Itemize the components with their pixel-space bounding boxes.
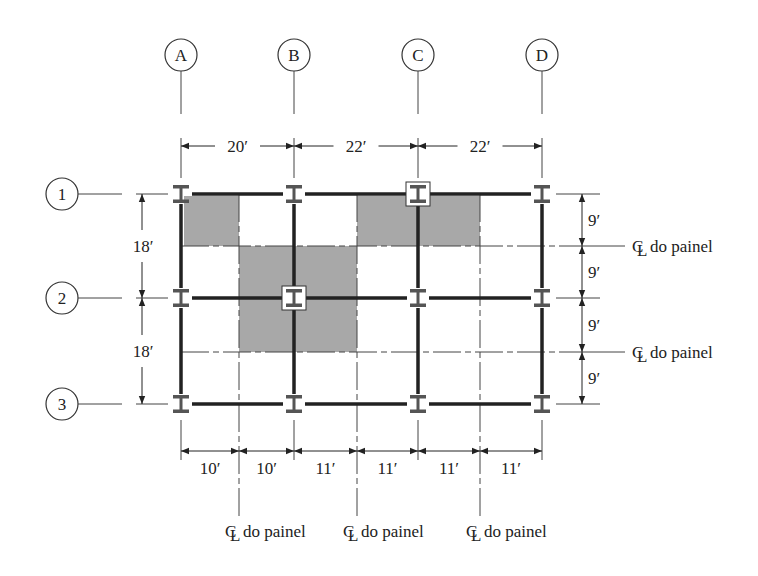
column-icon-C1 bbox=[406, 182, 430, 206]
centerline-symbol-icon: L bbox=[230, 526, 240, 545]
column-icon-B3 bbox=[286, 395, 302, 413]
column-icon-B1 bbox=[286, 185, 302, 203]
column-icon-C2 bbox=[410, 289, 426, 307]
dimension-label: 22′ bbox=[470, 137, 491, 156]
centerline-symbol-icon: L bbox=[471, 526, 481, 545]
dimension-label: 11′ bbox=[439, 459, 459, 478]
centerline-label: CLdo painel bbox=[632, 343, 713, 366]
dimension-label: 10′ bbox=[200, 459, 221, 478]
tributary-area-beam-a1 bbox=[184, 196, 239, 246]
dimension-label: 9′ bbox=[588, 263, 600, 282]
centerline-symbol-icon: L bbox=[637, 347, 647, 366]
centerline-label: CLdo painel bbox=[343, 522, 424, 545]
tributary-shaded-areas bbox=[184, 196, 480, 352]
column-icon-A3 bbox=[173, 395, 189, 413]
floor-plan-diagram: ABCD123 20′22′22′10′10′11′11′11′11′18′18… bbox=[0, 0, 758, 576]
dimension-label: 20′ bbox=[227, 137, 248, 156]
dimension-label: 22′ bbox=[346, 137, 367, 156]
column-icon-D1 bbox=[534, 185, 550, 203]
centerline-label: CLdo painel bbox=[466, 522, 547, 545]
centerline-text: do painel bbox=[484, 522, 547, 541]
grid-label-C: C bbox=[412, 46, 423, 65]
centerline-symbol-icon: L bbox=[637, 241, 647, 260]
column-icon-A2 bbox=[173, 289, 189, 307]
grid-label-A: A bbox=[175, 46, 188, 65]
column-icon-B2 bbox=[282, 286, 306, 310]
column-icon-D2 bbox=[534, 289, 550, 307]
column-icon-C3 bbox=[410, 395, 426, 413]
grid-label-3: 3 bbox=[58, 395, 67, 414]
dimension-label: 10′ bbox=[256, 459, 277, 478]
dimension-label: 11′ bbox=[501, 459, 521, 478]
centerline-label: CLdo painel bbox=[225, 522, 306, 545]
dimension-label: 9′ bbox=[588, 316, 600, 335]
centerline-text: do painel bbox=[243, 522, 306, 541]
dimension-label: 18′ bbox=[133, 342, 154, 361]
centerline-label: CLdo painel bbox=[632, 237, 713, 260]
centerline-text: do painel bbox=[650, 237, 713, 256]
centerline-symbol-icon: L bbox=[348, 526, 358, 545]
grid-label-2: 2 bbox=[58, 289, 67, 308]
column-icon-D3 bbox=[534, 395, 550, 413]
grid-label-B: B bbox=[288, 46, 299, 65]
grid-label-1: 1 bbox=[58, 185, 67, 204]
dimension-label: 9′ bbox=[588, 369, 600, 388]
dimension-label: 18′ bbox=[133, 237, 154, 256]
dimension-label: 9′ bbox=[588, 211, 600, 230]
centerline-text: do painel bbox=[361, 522, 424, 541]
dimension-lines: 20′22′22′10′10′11′11′11′11′18′18′9′9′9′9… bbox=[133, 137, 601, 478]
dimension-label: 11′ bbox=[377, 459, 397, 478]
centerline-text: do painel bbox=[650, 343, 713, 362]
dimension-label: 11′ bbox=[315, 459, 335, 478]
grid-label-D: D bbox=[536, 46, 548, 65]
column-icon-A1 bbox=[173, 185, 189, 203]
